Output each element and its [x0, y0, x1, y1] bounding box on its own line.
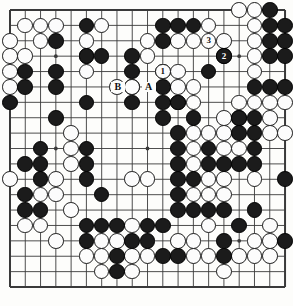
black-stone[interactable]	[216, 156, 232, 172]
white-stone[interactable]	[216, 110, 232, 126]
black-stone[interactable]	[124, 233, 140, 249]
white-stone[interactable]	[231, 2, 247, 18]
black-stone[interactable]	[109, 264, 125, 280]
black-stone[interactable]	[33, 156, 49, 172]
black-stone[interactable]	[155, 79, 171, 95]
white-stone[interactable]	[79, 248, 95, 264]
white-stone[interactable]	[124, 79, 140, 95]
white-stone[interactable]	[17, 48, 33, 64]
black-stone[interactable]	[155, 218, 171, 234]
black-stone[interactable]	[79, 171, 95, 187]
black-stone[interactable]	[170, 156, 186, 172]
numbered-stone-1[interactable]: 1	[155, 64, 171, 80]
black-stone[interactable]	[170, 171, 186, 187]
black-stone[interactable]	[17, 202, 33, 218]
black-stone[interactable]	[48, 64, 64, 80]
white-stone[interactable]	[124, 218, 140, 234]
black-stone[interactable]	[79, 233, 95, 249]
black-stone[interactable]	[247, 202, 263, 218]
white-stone[interactable]	[48, 187, 64, 203]
black-stone[interactable]	[277, 33, 293, 49]
black-stone[interactable]	[186, 171, 202, 187]
black-stone[interactable]	[231, 110, 247, 126]
go-board[interactable]: 123 AB	[0, 0, 293, 292]
white-stone[interactable]	[33, 33, 49, 49]
black-stone[interactable]	[277, 48, 293, 64]
black-stone[interactable]	[262, 48, 278, 64]
black-stone[interactable]	[262, 33, 278, 49]
white-stone[interactable]	[48, 233, 64, 249]
white-stone[interactable]	[216, 187, 232, 203]
black-stone[interactable]	[247, 125, 263, 141]
white-stone[interactable]	[247, 33, 263, 49]
black-stone[interactable]	[170, 141, 186, 157]
white-stone[interactable]	[231, 248, 247, 264]
white-stone[interactable]	[262, 218, 278, 234]
black-stone[interactable]	[170, 248, 186, 264]
black-stone[interactable]	[262, 2, 278, 18]
white-stone[interactable]	[63, 156, 79, 172]
white-stone[interactable]	[262, 125, 278, 141]
black-stone[interactable]	[277, 18, 293, 34]
black-stone[interactable]	[17, 156, 33, 172]
black-stone[interactable]	[48, 110, 64, 126]
black-stone[interactable]	[140, 233, 156, 249]
black-stone[interactable]	[155, 95, 171, 111]
white-stone[interactable]	[262, 248, 278, 264]
white-stone[interactable]	[277, 95, 293, 111]
white-stone[interactable]	[277, 125, 293, 141]
black-stone[interactable]	[124, 95, 140, 111]
black-stone[interactable]	[247, 79, 263, 95]
white-stone[interactable]	[186, 33, 202, 49]
white-stone[interactable]	[48, 171, 64, 187]
white-stone[interactable]	[216, 264, 232, 280]
white-stone[interactable]	[109, 233, 125, 249]
white-stone[interactable]	[186, 248, 202, 264]
black-stone[interactable]	[155, 110, 171, 126]
white-stone[interactable]	[79, 33, 95, 49]
black-stone[interactable]	[33, 202, 49, 218]
white-stone[interactable]	[140, 33, 156, 49]
white-stone[interactable]	[247, 48, 263, 64]
white-stone[interactable]	[17, 18, 33, 34]
black-stone[interactable]	[170, 18, 186, 34]
black-stone[interactable]	[277, 233, 293, 249]
white-stone[interactable]	[2, 79, 18, 95]
black-stone[interactable]	[155, 33, 171, 49]
white-stone[interactable]	[186, 156, 202, 172]
white-stone[interactable]	[48, 18, 64, 34]
black-stone[interactable]	[155, 18, 171, 34]
black-stone[interactable]	[231, 125, 247, 141]
black-stone[interactable]	[48, 33, 64, 49]
white-stone[interactable]	[186, 233, 202, 249]
black-stone[interactable]	[186, 202, 202, 218]
white-stone[interactable]	[2, 171, 18, 187]
black-stone[interactable]	[216, 202, 232, 218]
white-stone[interactable]	[231, 141, 247, 157]
white-stone[interactable]	[216, 33, 232, 49]
white-stone[interactable]	[262, 233, 278, 249]
white-stone[interactable]	[63, 202, 79, 218]
white-stone[interactable]	[170, 64, 186, 80]
white-stone[interactable]	[170, 79, 186, 95]
white-stone[interactable]	[2, 64, 18, 80]
black-stone[interactable]	[79, 156, 95, 172]
black-stone[interactable]	[186, 110, 202, 126]
black-stone[interactable]	[247, 110, 263, 126]
white-stone[interactable]	[186, 125, 202, 141]
white-stone[interactable]	[63, 141, 79, 157]
black-stone[interactable]	[247, 156, 263, 172]
black-stone[interactable]	[170, 202, 186, 218]
white-stone[interactable]	[63, 125, 79, 141]
black-stone[interactable]	[17, 79, 33, 95]
black-stone[interactable]	[2, 95, 18, 111]
black-stone[interactable]	[170, 125, 186, 141]
white-stone[interactable]	[216, 171, 232, 187]
numbered-stone-2[interactable]: 2	[216, 48, 232, 64]
black-stone[interactable]	[262, 18, 278, 34]
black-stone[interactable]	[277, 171, 293, 187]
black-stone[interactable]	[216, 233, 232, 249]
white-stone[interactable]	[231, 95, 247, 111]
white-stone[interactable]	[262, 110, 278, 126]
white-stone[interactable]	[186, 79, 202, 95]
